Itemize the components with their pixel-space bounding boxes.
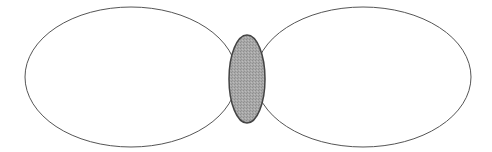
center-overlap-ellipse (229, 35, 265, 123)
diagram-canvas (0, 0, 492, 152)
right-lobe-ellipse (255, 7, 471, 147)
left-lobe-ellipse (25, 7, 237, 147)
lobes-diagram (0, 0, 492, 152)
